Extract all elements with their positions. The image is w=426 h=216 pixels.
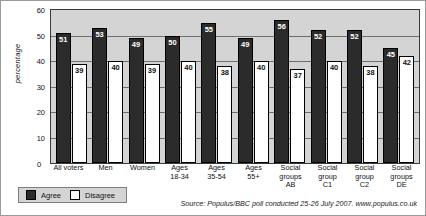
- bar-disagree[interactable]: 38: [217, 66, 232, 163]
- plot-area: 5139534049395040553849405637524052384542: [50, 9, 420, 164]
- x-category-label: SocialgroupsAB: [272, 164, 309, 190]
- x-category-label: Ages55+: [235, 164, 272, 190]
- bar-group: 5240: [308, 10, 344, 163]
- bar-disagree[interactable]: 38: [363, 66, 378, 163]
- bar-group: 5637: [271, 10, 307, 163]
- y-tick-label: 40: [23, 57, 45, 66]
- y-tick-label: 10: [23, 133, 45, 142]
- x-category-label: All voters: [50, 164, 87, 190]
- bar-group: 5538: [199, 10, 235, 163]
- bar-value-label: 56: [277, 22, 285, 31]
- bar-value-label: 40: [257, 63, 265, 72]
- legend-swatch-disagree: [70, 190, 80, 200]
- bar-group: 4542: [381, 10, 417, 163]
- bar-agree[interactable]: 52: [347, 30, 362, 163]
- y-tick-label: 60: [23, 6, 45, 15]
- x-category-label: Ages18-34: [161, 164, 198, 190]
- bar-value-label: 40: [111, 63, 119, 72]
- bar-agree[interactable]: 51: [56, 33, 71, 163]
- bar-value-label: 55: [205, 25, 213, 34]
- bar-group: 4940: [235, 10, 271, 163]
- legend-label-disagree: Disagree: [85, 191, 115, 200]
- bar-value-label: 52: [314, 32, 322, 41]
- bar-value-label: 51: [59, 35, 67, 44]
- bar-value-label: 39: [148, 66, 156, 75]
- bar-disagree[interactable]: 37: [290, 69, 305, 163]
- legend-label-agree: Agree: [41, 191, 61, 200]
- bar-groups: 5139534049395040553849405637524052384542: [51, 10, 419, 163]
- x-category-label: SocialgroupC2: [346, 164, 383, 190]
- legend-swatch-agree: [26, 190, 36, 200]
- bar-value-label: 53: [95, 30, 103, 39]
- y-axis-ticks: 102030405060: [23, 9, 45, 164]
- bar-value-label: 42: [403, 58, 411, 67]
- bar-value-label: 49: [132, 40, 140, 49]
- x-category-label: Ages35-54: [198, 164, 235, 190]
- x-axis-categories: All votersMenWomenAges18-34Ages35-54Ages…: [50, 164, 420, 190]
- bar-value-label: 50: [168, 38, 176, 47]
- bar-value-label: 40: [330, 63, 338, 72]
- y-axis-title: percentage: [13, 18, 22, 110]
- bar-group: 5139: [53, 10, 89, 163]
- bar-group: 5040: [162, 10, 198, 163]
- x-category-label: SocialgroupsDE: [383, 164, 420, 190]
- bar-agree[interactable]: 49: [129, 38, 144, 163]
- chart-legend: AgreeDisagree: [18, 187, 127, 203]
- bar-value-label: 37: [293, 71, 301, 80]
- bar-agree[interactable]: 49: [238, 38, 253, 163]
- y-axis-zero-label: 0: [37, 160, 41, 169]
- bar-disagree[interactable]: 40: [254, 61, 269, 163]
- bar-group: 5340: [89, 10, 125, 163]
- bar-agree[interactable]: 45: [383, 48, 398, 163]
- bar-value-label: 38: [221, 68, 229, 77]
- bar-agree[interactable]: 56: [274, 20, 289, 163]
- y-tick-label: 30: [23, 82, 45, 91]
- bar-value-label: 38: [366, 68, 374, 77]
- x-category-label: Men: [87, 164, 124, 190]
- bar-agree[interactable]: 53: [92, 28, 107, 163]
- bar-disagree[interactable]: 40: [108, 61, 123, 163]
- bar-disagree[interactable]: 40: [181, 61, 196, 163]
- bar-disagree[interactable]: 42: [399, 56, 414, 163]
- bar-disagree[interactable]: 39: [145, 64, 160, 163]
- bar-disagree[interactable]: 40: [327, 61, 342, 163]
- bar-value-label: 39: [75, 66, 83, 75]
- bar-agree[interactable]: 50: [165, 36, 180, 164]
- bar-value-label: 40: [184, 63, 192, 72]
- bar-group: 4939: [126, 10, 162, 163]
- chart-figure: percentage 102030405060 0 51395340493950…: [0, 0, 426, 216]
- y-tick-label: 20: [23, 108, 45, 117]
- y-tick-label: 50: [23, 31, 45, 40]
- bar-agree[interactable]: 55: [201, 23, 216, 163]
- bar-value-label: 45: [387, 50, 395, 59]
- bar-agree[interactable]: 52: [311, 30, 326, 163]
- x-category-label: Women: [124, 164, 161, 190]
- bar-group: 5238: [344, 10, 380, 163]
- bar-disagree[interactable]: 39: [72, 64, 87, 163]
- bar-value-label: 52: [350, 32, 358, 41]
- bar-value-label: 49: [241, 40, 249, 49]
- x-category-label: SocialgroupC1: [309, 164, 346, 190]
- source-note: Source: Populus/BBC poll conducted 25-26…: [180, 199, 417, 208]
